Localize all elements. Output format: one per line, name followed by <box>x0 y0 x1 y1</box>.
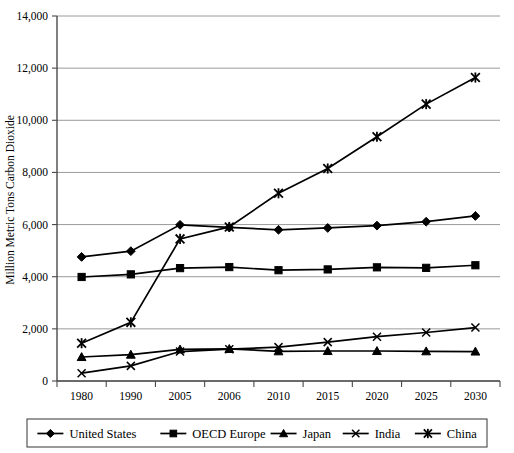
y-axis-title-text: Million Metric Tons Carbon Dioxide <box>4 115 16 285</box>
data-point-diamond <box>176 220 185 229</box>
series-china <box>77 72 480 348</box>
y-tick-label: 0 <box>42 375 48 387</box>
y-axis-title: Million Metric Tons Carbon Dioxide <box>4 115 16 285</box>
data-point-square <box>127 271 134 278</box>
x-tick-label: 2010 <box>267 390 290 402</box>
x-tick-label: 1990 <box>119 390 142 402</box>
y-tick-label: 4,000 <box>22 271 48 284</box>
x-tick-label: 2015 <box>316 390 339 402</box>
data-point-square <box>78 273 85 280</box>
data-point-diamond <box>77 253 86 262</box>
data-point-star <box>77 338 86 348</box>
data-point-square <box>423 264 430 271</box>
data-point-diamond <box>471 212 480 221</box>
x-axis-tick-labels: 198019902005200620102015202020252030 <box>70 390 487 402</box>
y-axis-tick-labels: 02,0004,0006,0008,00010,00012,00014,000 <box>16 10 48 387</box>
legend-label: OECD Europe <box>192 427 266 441</box>
legend-label: China <box>447 427 477 441</box>
data-point-diamond <box>274 225 283 234</box>
chart-legend: United StatesOECD EuropeJapanIndiaChina <box>27 419 487 447</box>
series-united-states <box>77 212 480 262</box>
y-tick-label: 14,000 <box>16 10 48 23</box>
series-line <box>82 216 476 257</box>
data-point-diamond <box>373 221 382 230</box>
x-tick-label: 2020 <box>365 390 388 402</box>
y-tick-label: 10,000 <box>16 114 48 127</box>
data-point-square <box>176 265 183 272</box>
chart-container: 02,0004,0006,0008,00010,00012,00014,000 … <box>0 0 514 453</box>
legend-label: United States <box>69 427 136 441</box>
y-tick-label: 2,000 <box>22 323 48 336</box>
data-point-square <box>324 266 331 273</box>
y-tick-label: 12,000 <box>16 62 48 75</box>
gridlines <box>52 16 500 381</box>
x-tick-label: 2025 <box>415 390 438 402</box>
x-tick-label: 2005 <box>169 390 192 402</box>
data-point-square <box>170 430 177 437</box>
y-tick-label: 6,000 <box>22 219 48 232</box>
legend-label: India <box>375 427 401 441</box>
series-line <box>82 78 476 344</box>
x-tick-label: 2006 <box>218 390 241 402</box>
data-point-star <box>471 72 480 82</box>
series-oecd-europe <box>78 262 479 281</box>
data-point-square <box>472 262 479 269</box>
x-axis-tickmarks <box>57 381 500 387</box>
data-point-star <box>422 99 431 109</box>
y-tick-label: 8,000 <box>22 166 48 179</box>
data-point-square <box>275 267 282 274</box>
data-point-star <box>274 188 283 198</box>
legend-label: Japan <box>303 427 332 441</box>
line-chart: 02,0004,0006,0008,00010,00012,00014,000 … <box>0 0 514 453</box>
data-point-square <box>226 263 233 270</box>
data-point-star <box>373 132 382 142</box>
data-point-diamond <box>126 247 135 256</box>
x-tick-label: 1980 <box>70 390 93 402</box>
x-tick-label: 2030 <box>464 390 487 402</box>
data-point-star <box>126 317 135 327</box>
data-point-star <box>323 163 332 173</box>
data-point-square <box>373 264 380 271</box>
